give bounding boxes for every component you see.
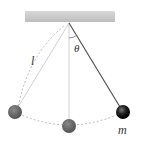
length-label: l <box>31 55 34 67</box>
string-left <box>15 23 69 112</box>
angle-arc <box>69 35 77 38</box>
ceiling-support <box>25 11 115 22</box>
bob-left <box>8 105 22 119</box>
bob-right <box>116 105 130 119</box>
bob-center <box>62 119 76 133</box>
string-right <box>69 23 123 112</box>
angle-label: θ <box>74 43 79 54</box>
mass-label: m <box>118 124 127 136</box>
